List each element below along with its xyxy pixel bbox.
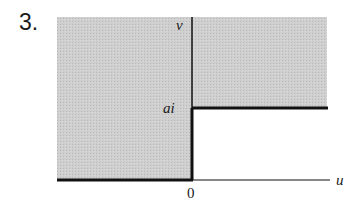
region-diagram: v ai 0 u: [0, 0, 354, 203]
shaded-region-upper-right: [192, 17, 327, 108]
u-axis-label: u: [336, 172, 344, 188]
ai-label: ai: [163, 100, 175, 116]
v-axis-label: v: [176, 17, 183, 33]
shaded-region-left: [57, 17, 192, 180]
origin-label: 0: [187, 185, 195, 201]
